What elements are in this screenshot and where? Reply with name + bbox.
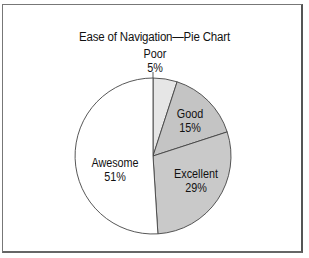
slice-name: Excellent	[174, 167, 218, 181]
slice-name: Good	[177, 107, 203, 121]
slice-name: Awesome	[91, 156, 138, 170]
slice-value: 51%	[91, 170, 138, 184]
slice-value: 5%	[144, 61, 167, 75]
slice-label-good: Good 15%	[177, 107, 203, 135]
slice-name: Poor	[144, 47, 167, 61]
slice-label-excellent: Excellent 29%	[174, 167, 218, 195]
pie-chart	[0, 0, 309, 258]
slice-label-poor: Poor 5%	[144, 47, 167, 75]
slice-value: 15%	[177, 121, 203, 135]
slice-value: 29%	[174, 181, 218, 195]
slice-label-awesome: Awesome 51%	[91, 156, 138, 184]
